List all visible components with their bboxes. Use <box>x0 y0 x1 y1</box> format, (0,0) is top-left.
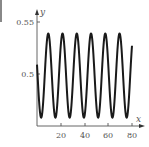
x-tick-label-60: 60 <box>103 131 113 140</box>
y-tick-label-055: 0.55 <box>16 18 34 27</box>
chart: y 0.55 0.5 x 20 40 60 80 <box>0 0 149 147</box>
x-axis-label: x <box>136 114 141 124</box>
plot-area: y 0.55 0.5 x 20 40 60 80 <box>0 0 149 147</box>
x-tick-label-80: 80 <box>127 131 137 140</box>
x-tick-label-20: 20 <box>56 131 66 140</box>
y-tick-label-05: 0.5 <box>21 70 34 79</box>
y-axis-arrow-icon <box>35 9 39 15</box>
data-curve <box>37 33 132 117</box>
x-axis-arrow-icon <box>139 124 145 128</box>
border-fragment <box>0 0 2 22</box>
y-axis-label: y <box>39 7 46 17</box>
x-tick-label-40: 40 <box>80 131 90 140</box>
